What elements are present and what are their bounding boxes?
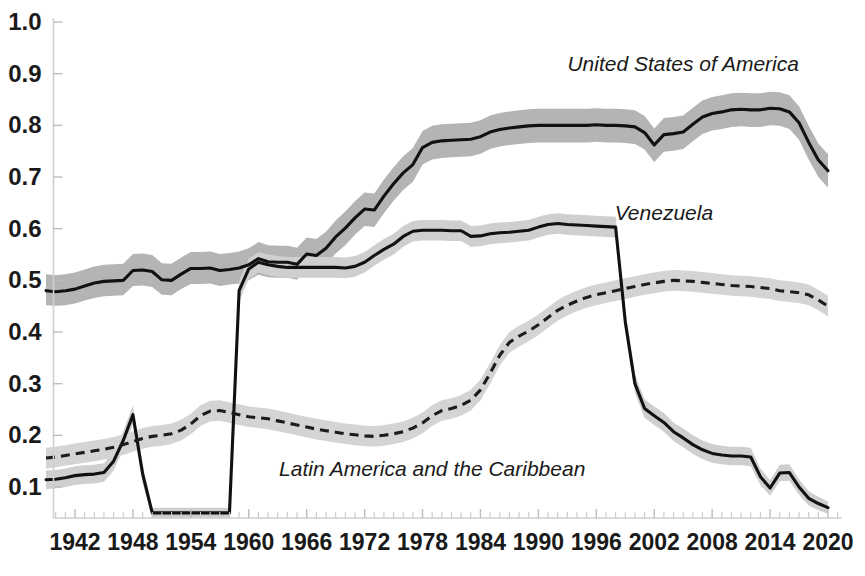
x-axis-tick-label: 1942 [49,529,100,555]
x-axis-tick-label: 1948 [107,529,158,555]
y-axis-tick-label: 1.0 [8,8,41,35]
confidence-band-3 [46,270,828,468]
y-axis-tick-label: 0.4 [8,318,42,345]
x-axis-tick-label: 1960 [223,529,274,555]
line-chart: 1.00.90.80.70.60.50.40.30.20.1 194219481… [0,0,865,576]
x-axis-tick-label: 1990 [513,529,564,555]
x-axis-tick-label: 1972 [339,529,390,555]
series-lines-layer [46,108,828,513]
y-axis-tick-labels: 1.00.90.80.70.60.50.40.30.20.1 [8,8,42,500]
y-axis-tick-label: 0.5 [8,266,41,293]
x-axis-tick-label: 2002 [629,529,680,555]
y-axis-tick-label: 0.8 [8,111,41,138]
chart-container: 1.00.90.80.70.60.50.40.30.20.1 194219481… [0,0,865,576]
series-label-1: United States of America [567,52,799,75]
x-axis-tick-label: 2014 [744,529,795,555]
y-axis-tick-label: 0.2 [8,421,41,448]
x-axis-tick-label: 1966 [281,529,332,555]
x-axis-tick-label: 2020 [802,529,853,555]
x-axis-tick-label: 1984 [455,529,506,555]
x-axis-tick-label: 2008 [687,529,738,555]
x-axis-tick-label: 1978 [397,529,448,555]
x-axis-tick-label: 1996 [571,529,622,555]
x-axis-tick-label: 1954 [165,529,216,555]
y-axis-tick-label: 0.7 [8,163,41,190]
series-label-2: Venezuela [615,201,713,224]
y-axis-tick-label: 0.3 [8,370,41,397]
y-axis-tick-label: 0.1 [8,473,41,500]
y-axis-tick-label: 0.9 [8,60,41,87]
y-axis-tick-label: 0.6 [8,215,41,242]
x-axis-tick-labels: 1942194819541960196619721978198419901996… [49,529,853,555]
series-label-3: Latin America and the Caribbean [279,457,585,480]
